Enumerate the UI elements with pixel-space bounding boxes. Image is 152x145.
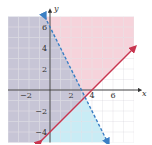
- y-tick-label: −4: [35, 128, 47, 137]
- y-tick-label: −2: [35, 107, 47, 116]
- plot-area: [8, 17, 134, 145]
- y-tick-label: 4: [42, 44, 47, 53]
- x-tick-label: −2: [20, 91, 32, 100]
- y-tick-label: 6: [42, 23, 47, 32]
- y-axis-label: y: [53, 4, 59, 13]
- x-tick-label: 2: [68, 91, 73, 100]
- y-tick-label: 2: [42, 65, 47, 74]
- inequality-graph: −2246642−2−4xy: [0, 0, 152, 144]
- x-axis-label: x: [142, 89, 147, 98]
- x-tick-label: 6: [110, 91, 115, 100]
